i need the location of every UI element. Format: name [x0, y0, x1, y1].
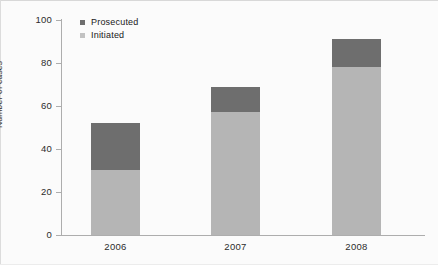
- y-tick-label-0: 0: [4, 229, 52, 240]
- y-tick-80: [56, 63, 61, 64]
- legend-item-prosecuted: Prosecuted: [80, 16, 139, 29]
- bar-segment-prosecuted-2006: [91, 123, 140, 170]
- y-tick-label-100: 100: [4, 14, 52, 25]
- y-tick-20: [56, 192, 61, 193]
- figure-top-border: [0, 0, 438, 1]
- bar-chart-figure: Number of cases 020406080100 20062007200…: [0, 0, 438, 265]
- y-tick-40: [56, 149, 61, 150]
- legend-label-initiated: Initiated: [91, 29, 124, 42]
- bar-segment-prosecuted-2007: [211, 87, 260, 113]
- y-tick-label-60: 60: [4, 100, 52, 111]
- bar-2008: [332, 39, 381, 235]
- bar-segment-initiated-2007: [211, 112, 260, 235]
- legend-swatch-initiated-icon: [80, 33, 85, 38]
- bar-2006: [91, 123, 140, 235]
- bar-segment-prosecuted-2008: [332, 39, 381, 67]
- x-tick-label-2006: 2006: [76, 241, 156, 252]
- legend-item-initiated: Initiated: [80, 29, 139, 42]
- bar-2007: [211, 87, 260, 235]
- legend-swatch-prosecuted-icon: [80, 20, 85, 25]
- bar-segment-initiated-2006: [91, 170, 140, 235]
- x-tick-label-2008: 2008: [317, 241, 397, 252]
- y-tick-label-40: 40: [4, 143, 52, 154]
- y-tick-label-80: 80: [4, 57, 52, 68]
- y-tick-label-20: 20: [4, 186, 52, 197]
- x-axis-line: [61, 235, 425, 236]
- y-tick-100: [56, 20, 61, 21]
- y-tick-60: [56, 106, 61, 107]
- bar-segment-initiated-2008: [332, 67, 381, 235]
- x-tick-label-2007: 2007: [196, 241, 276, 252]
- chart-legend: Prosecuted Initiated: [80, 16, 139, 42]
- legend-label-prosecuted: Prosecuted: [91, 16, 139, 29]
- y-tick-0: [56, 235, 61, 236]
- y-axis-line: [61, 19, 62, 236]
